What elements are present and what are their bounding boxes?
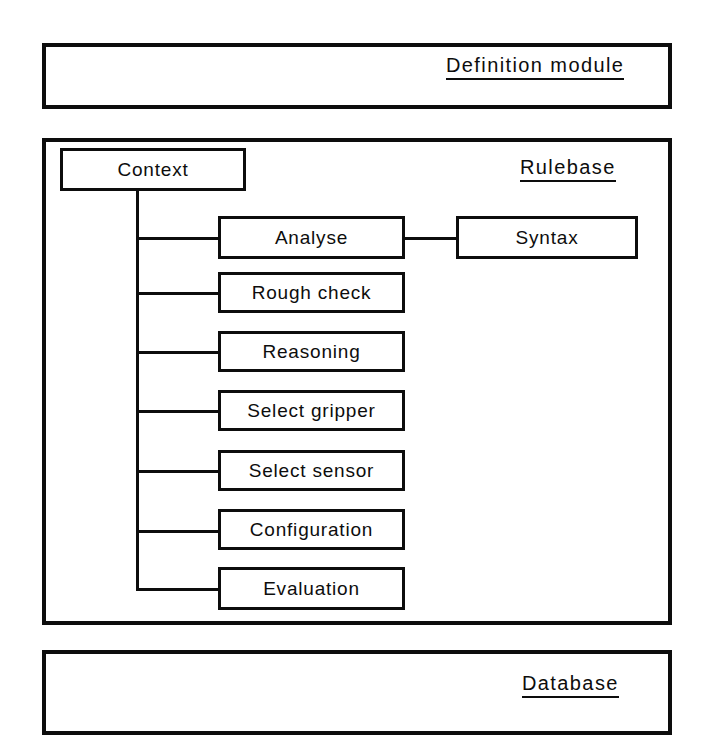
connector-configuration — [136, 530, 220, 533]
node-analyse[interactable]: Analyse — [218, 216, 405, 259]
rulebase-label: Rulebase — [520, 156, 616, 182]
connector-select-gripper — [136, 410, 220, 413]
node-select-sensor[interactable]: Select sensor — [218, 450, 405, 491]
node-context-label: Context — [117, 159, 188, 181]
node-reasoning-label: Reasoning — [262, 341, 360, 363]
connector-analyse — [136, 237, 220, 240]
node-configuration-label: Configuration — [250, 519, 373, 541]
node-syntax[interactable]: Syntax — [456, 216, 638, 259]
connector-rough-check — [136, 292, 220, 295]
diagram-canvas: Definition module Rulebase Context Analy… — [0, 0, 714, 755]
node-select-sensor-label: Select sensor — [249, 460, 375, 482]
connector-select-sensor — [136, 470, 220, 473]
connector-evaluation — [136, 588, 220, 591]
node-configuration[interactable]: Configuration — [218, 509, 405, 550]
node-select-gripper-label: Select gripper — [247, 400, 375, 422]
node-rough-check-label: Rough check — [252, 282, 372, 304]
node-reasoning[interactable]: Reasoning — [218, 331, 405, 372]
node-syntax-label: Syntax — [516, 227, 579, 249]
node-analyse-label: Analyse — [275, 227, 348, 249]
connector-reasoning — [136, 351, 220, 354]
database-label: Database — [522, 672, 619, 698]
node-rough-check[interactable]: Rough check — [218, 272, 405, 313]
definition-module-label: Definition module — [446, 54, 624, 80]
connector-analyse-syntax — [403, 237, 458, 240]
node-context[interactable]: Context — [60, 148, 246, 191]
node-evaluation-label: Evaluation — [263, 578, 360, 600]
node-select-gripper[interactable]: Select gripper — [218, 390, 405, 431]
node-evaluation[interactable]: Evaluation — [218, 567, 405, 610]
